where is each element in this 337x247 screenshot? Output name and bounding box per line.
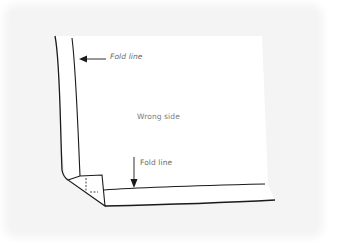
- fold-line-label-top: Fold line: [110, 52, 143, 61]
- wrong-side-label: Wrong side: [137, 112, 180, 121]
- fold-line-label-bottom: Fold line: [140, 158, 172, 167]
- mitered-corner: [68, 175, 105, 206]
- diagram-canvas: Fold line Wrong side Fold line: [0, 0, 337, 247]
- fabric-illustration: [0, 0, 337, 247]
